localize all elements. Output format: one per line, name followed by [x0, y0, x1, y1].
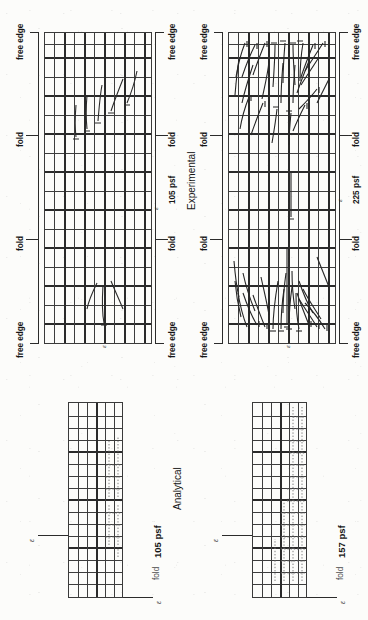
label-fold-d1: fold: [352, 236, 361, 251]
label-fold-c2: fold: [200, 132, 209, 147]
rail-bottom-tick-fold1: [155, 239, 168, 240]
symbol-epsilon-analytical-105-bottom: ε: [154, 601, 163, 604]
rail-top-tick-fold2: [26, 135, 39, 136]
label-fold-d2: fold: [352, 132, 361, 147]
panel-experimental-105: free edge fold fold free edge: [0, 0, 184, 360]
label-load-105-exp: 105 psf: [168, 176, 177, 204]
rail-top-b-cap-left: [214, 343, 223, 344]
rail-top-b-cap-right: [214, 32, 223, 33]
leader-epsilon-105-top: [38, 535, 68, 536]
leader-epsilon-157-top: [222, 535, 252, 536]
leader-epsilon-157-bottom: [307, 597, 337, 598]
grid-experimental-105: [44, 32, 152, 344]
rail-top-b-tick-fold2: [210, 135, 223, 136]
rail-bottom-b: [339, 32, 340, 344]
label-load-157-analytical: 157 psf: [336, 525, 347, 558]
rail-bottom-b-tick-fold2: [339, 135, 352, 136]
column-title-experimental: Experimental: [186, 152, 197, 210]
label-fold-c1: fold: [200, 236, 209, 251]
analytical-crack-dots-157: [253, 401, 308, 597]
label-free-edge-a1: free edge: [16, 322, 25, 358]
panel-experimental-225: Experimental free edge fold fold free ed…: [184, 0, 368, 360]
rail-top-cap-right: [30, 32, 39, 33]
grid-analytical-157: [252, 402, 307, 598]
column-title-analytical: Analytical: [172, 467, 183, 510]
rail-bottom-b-cap-left: [339, 343, 348, 344]
rail-top: [38, 32, 39, 344]
label-fold-b1: fold: [168, 236, 177, 251]
label-free-edge-b2: free edge: [168, 24, 177, 60]
rail-top-b: [222, 32, 223, 344]
symbol-epsilon-analytical-157-top: ε: [211, 539, 220, 542]
panel-analytical-105: ε: [0, 360, 184, 620]
label-free-edge-d1: free edge: [352, 322, 361, 358]
symbol-epsilon-105a: ε: [100, 345, 108, 348]
rail-bottom-tick-fold2: [155, 135, 168, 136]
label-fold-analytical-105: fold: [152, 567, 161, 580]
symbol-epsilon-analytical-105-top: ε: [27, 539, 36, 542]
rail-bottom: [155, 32, 156, 344]
rail-top-cap-left: [30, 343, 39, 344]
label-fold-b2: fold: [168, 132, 177, 147]
rail-bottom-b-cap-right: [339, 32, 348, 33]
symbol-epsilon-225a: ε: [284, 345, 292, 348]
label-free-edge-b1: free edge: [168, 322, 177, 358]
label-free-edge-c1: free edge: [200, 322, 209, 358]
crack-overlay-105: [45, 31, 153, 343]
grid-experimental-225: [228, 32, 336, 344]
label-load-225-exp: 225 psf: [352, 176, 361, 204]
rail-top-b-tick-fold1: [210, 239, 223, 240]
rail-bottom-cap-left: [155, 343, 164, 344]
grid-analytical-105: [68, 402, 123, 598]
rail-bottom-cap-right: [155, 32, 164, 33]
label-free-edge-c2: free edge: [200, 24, 209, 60]
analytical-crack-dots-105: [69, 401, 124, 597]
label-free-edge-d2: free edge: [352, 24, 361, 60]
rail-top-tick-fold1: [26, 239, 39, 240]
label-free-edge-a2: free edge: [16, 24, 25, 60]
rail-bottom-b-tick-fold1: [339, 239, 352, 240]
crack-overlay-225: [229, 31, 337, 343]
label-fold-analytical-157: fold: [336, 567, 345, 580]
label-fold-a1: fold: [16, 236, 25, 251]
leader-epsilon-105-bottom: [123, 597, 153, 598]
panel-analytical-157: ε: [184, 360, 368, 620]
label-fold-a2: fold: [16, 132, 25, 147]
symbol-epsilon-analytical-157-bottom: ε: [338, 601, 347, 604]
figure-page: free edge fold fold free edge: [0, 0, 368, 620]
label-load-105-analytical: 105 psf: [152, 525, 163, 558]
